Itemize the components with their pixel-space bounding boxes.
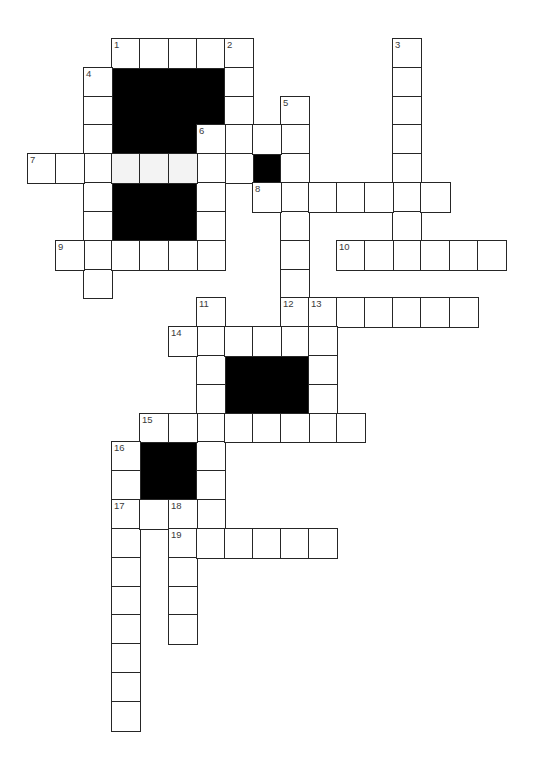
crossword-cell[interactable] xyxy=(252,326,282,357)
crossword-cell[interactable] xyxy=(449,297,479,328)
crossword-cell[interactable] xyxy=(280,413,310,443)
crossword-cell[interactable] xyxy=(196,38,226,69)
crossword-cell[interactable] xyxy=(139,153,170,184)
crossword-cell[interactable] xyxy=(392,297,422,328)
crossword-cell[interactable] xyxy=(308,384,338,415)
crossword-cell[interactable]: 16 xyxy=(111,441,141,472)
crossword-cell[interactable]: 11 xyxy=(196,297,226,328)
crossword-cell[interactable] xyxy=(196,153,226,184)
crossword-cell[interactable]: 2 xyxy=(224,38,254,69)
crossword-cell[interactable] xyxy=(139,240,170,271)
crossword-cell[interactable] xyxy=(139,38,170,69)
crossword-cell[interactable]: 13 xyxy=(308,297,338,328)
crossword-cell[interactable] xyxy=(280,124,310,155)
crossword-cell[interactable] xyxy=(168,614,198,645)
crossword-cell[interactable] xyxy=(420,182,451,213)
crossword-cell[interactable] xyxy=(420,240,451,271)
crossword-cell[interactable]: 19 xyxy=(168,528,198,559)
crossword-cell[interactable] xyxy=(477,240,507,271)
crossword-cell[interactable] xyxy=(168,557,198,588)
crossword-cell[interactable] xyxy=(83,182,113,213)
crossword-cell[interactable] xyxy=(168,153,198,184)
crossword-cell[interactable] xyxy=(111,153,141,184)
crossword-cell[interactable] xyxy=(111,240,141,271)
crossword-cell[interactable] xyxy=(196,413,226,443)
crossword-cell[interactable]: 10 xyxy=(336,240,366,271)
crossword-cell[interactable] xyxy=(111,557,141,588)
crossword-cell[interactable] xyxy=(196,470,226,501)
crossword-cell[interactable] xyxy=(196,182,226,213)
crossword-cell[interactable] xyxy=(336,413,366,443)
crossword-cell[interactable] xyxy=(224,124,254,155)
crossword-cell[interactable] xyxy=(224,413,254,443)
crossword-cell[interactable]: 1 xyxy=(111,38,141,69)
crossword-cell[interactable] xyxy=(336,297,366,328)
crossword-cell[interactable] xyxy=(392,153,422,184)
crossword-cell[interactable] xyxy=(196,355,226,386)
crossword-cell[interactable] xyxy=(364,182,394,213)
crossword-cell[interactable] xyxy=(83,240,113,271)
crossword-cell[interactable] xyxy=(196,211,226,242)
crossword-cell[interactable] xyxy=(83,211,113,242)
crossword-cell[interactable]: 8 xyxy=(252,182,282,213)
crossword-cell[interactable] xyxy=(168,586,198,616)
crossword-cell[interactable] xyxy=(168,38,198,69)
crossword-cell[interactable] xyxy=(336,182,366,213)
crossword-cell[interactable] xyxy=(308,528,338,559)
crossword-cell[interactable] xyxy=(196,384,226,415)
crossword-cell[interactable] xyxy=(280,240,310,271)
crossword-cell[interactable] xyxy=(280,182,310,213)
crossword-cell[interactable]: 18 xyxy=(168,499,198,530)
crossword-cell[interactable] xyxy=(196,326,226,357)
crossword-cell[interactable]: 6 xyxy=(196,124,226,155)
crossword-cell[interactable] xyxy=(168,413,198,443)
crossword-cell[interactable] xyxy=(224,67,254,98)
crossword-cell[interactable] xyxy=(308,182,338,213)
crossword-cell[interactable] xyxy=(392,240,422,271)
crossword-cell[interactable] xyxy=(168,240,198,271)
crossword-cell[interactable] xyxy=(83,153,113,184)
crossword-cell[interactable] xyxy=(308,355,338,386)
crossword-cell[interactable] xyxy=(364,297,394,328)
crossword-cell[interactable] xyxy=(280,326,310,357)
crossword-cell[interactable] xyxy=(196,499,226,530)
crossword-cell[interactable]: 7 xyxy=(27,153,57,184)
crossword-cell[interactable] xyxy=(111,470,141,501)
crossword-cell[interactable] xyxy=(111,672,141,703)
crossword-cell[interactable] xyxy=(196,528,226,559)
crossword-cell[interactable] xyxy=(308,326,338,357)
crossword-cell[interactable] xyxy=(111,614,141,645)
crossword-cell[interactable] xyxy=(392,211,422,242)
crossword-cell[interactable] xyxy=(83,269,113,299)
crossword-cell[interactable] xyxy=(392,67,422,98)
crossword-cell[interactable] xyxy=(392,182,422,213)
crossword-cell[interactable] xyxy=(280,269,310,299)
crossword-cell[interactable] xyxy=(252,528,282,559)
crossword-cell[interactable]: 3 xyxy=(392,38,422,69)
crossword-cell[interactable] xyxy=(196,240,226,271)
crossword-cell[interactable]: 5 xyxy=(280,96,310,126)
crossword-cell[interactable] xyxy=(252,413,282,443)
crossword-cell[interactable] xyxy=(111,528,141,559)
crossword-cell[interactable] xyxy=(83,124,113,155)
crossword-cell[interactable] xyxy=(252,124,282,155)
crossword-cell[interactable] xyxy=(308,413,338,443)
crossword-cell[interactable]: 12 xyxy=(280,297,310,328)
crossword-cell[interactable] xyxy=(420,297,451,328)
crossword-cell[interactable] xyxy=(449,240,479,271)
crossword-cell[interactable] xyxy=(224,528,254,559)
crossword-cell[interactable] xyxy=(224,326,254,357)
crossword-cell[interactable] xyxy=(111,701,141,732)
crossword-cell[interactable] xyxy=(55,153,85,184)
crossword-cell[interactable] xyxy=(364,240,394,271)
crossword-cell[interactable]: 14 xyxy=(168,326,198,357)
crossword-cell[interactable] xyxy=(111,586,141,616)
crossword-cell[interactable]: 9 xyxy=(55,240,85,271)
crossword-cell[interactable]: 17 xyxy=(111,499,141,530)
crossword-cell[interactable] xyxy=(83,96,113,126)
crossword-cell[interactable] xyxy=(224,153,254,184)
crossword-cell[interactable] xyxy=(280,153,310,184)
crossword-cell[interactable] xyxy=(392,124,422,155)
crossword-cell[interactable] xyxy=(196,441,226,472)
crossword-cell[interactable] xyxy=(139,499,170,530)
